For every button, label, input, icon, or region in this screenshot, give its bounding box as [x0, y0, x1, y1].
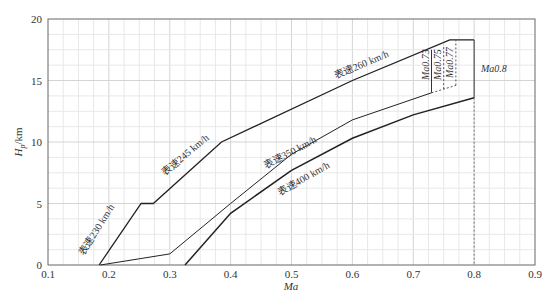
x-tick-label: 0.2 — [102, 268, 116, 280]
x-tick-label: 0.7 — [406, 268, 420, 280]
label-ma077: Ma0.77 — [444, 46, 455, 79]
series-line — [100, 93, 431, 265]
x-tick-label: 0.9 — [528, 268, 542, 280]
y-tick-label: 15 — [31, 75, 43, 87]
y-tick-label: 0 — [37, 259, 43, 271]
label-ma08: Ma0.8 — [480, 63, 507, 74]
flight-envelope-chart: 0.10.20.30.40.50.60.70.80.9 05101520 Ma … — [0, 0, 556, 304]
x-tick-label: 0.4 — [224, 268, 238, 280]
y-axis-label: Hp/km — [12, 127, 27, 158]
grid — [48, 19, 535, 265]
x-axis-ticks: 0.10.20.30.40.50.60.70.80.9 — [41, 268, 542, 280]
x-tick-label: 0.8 — [467, 268, 481, 280]
label-ma073: Ma0.73 — [420, 49, 431, 81]
x-tick-label: 0.6 — [346, 268, 360, 280]
x-tick-label: 0.3 — [163, 268, 177, 280]
y-tick-label: 5 — [37, 198, 43, 210]
x-axis-label: Ma — [283, 280, 299, 292]
label-260: 表速260 km/h — [332, 47, 390, 81]
y-axis-ticks: 05101520 — [31, 13, 43, 271]
x-tick-label: 0.1 — [41, 268, 55, 280]
label-ma075: Ma0.75 — [432, 49, 443, 81]
series-line — [185, 98, 474, 265]
label-350: 表速350 km/h — [261, 133, 318, 171]
y-tick-label: 10 — [31, 136, 43, 148]
y-tick-label: 20 — [31, 13, 43, 25]
x-tick-label: 0.5 — [285, 268, 299, 280]
